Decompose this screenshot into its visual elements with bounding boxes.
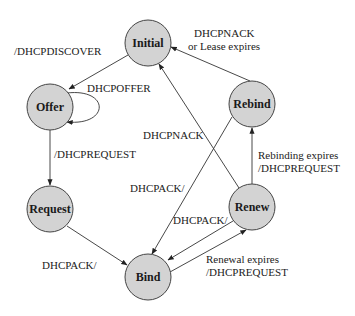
state-initial: Initial [125,20,171,66]
state-offer-label: Offer [36,100,65,114]
label-lease-expires: or Lease expires [188,40,260,52]
label-renewal-dhcprequest: /DHCPREQUEST [206,266,288,278]
label-dhcpdiscover: /DHCPDISCOVER [14,45,102,57]
label-renewal-expires: Renewal expires [206,253,279,265]
state-offer: Offer [27,84,73,130]
state-request-label: Request [29,202,70,216]
label-rebind-dhcpack: DHCPACK/ [130,182,186,194]
state-renew-label: Renew [235,200,270,214]
label-renew-dhcpnack: DHCPNACK [143,129,204,141]
state-rebind-label: Rebind [233,97,271,111]
label-request-dhcpack: DHCPACK/ [42,259,98,271]
label-rebinding-dhcprequest: /DHCPREQUEST [258,162,340,174]
label-renew-dhcpack: DHCPACK/ [173,214,229,226]
state-rebind: Rebind [229,81,275,127]
state-renew: Renew [229,184,275,230]
state-bind: Bind [125,254,171,300]
state-request: Request [27,186,73,232]
label-rebind-dhcpnack: DHCPNACK [194,27,255,39]
label-dhcpoffer: DHCPOFFER [87,82,151,94]
dhcp-state-diagram: Initial Offer Request Bind Renew Rebind … [0,0,355,316]
edge-rebind-to-initial [171,47,250,81]
label-rebinding-expires: Rebinding expires [258,149,338,161]
state-initial-label: Initial [132,36,164,50]
label-offer-dhcprequest: /DHCPREQUEST [54,148,136,160]
state-bind-label: Bind [136,270,161,284]
